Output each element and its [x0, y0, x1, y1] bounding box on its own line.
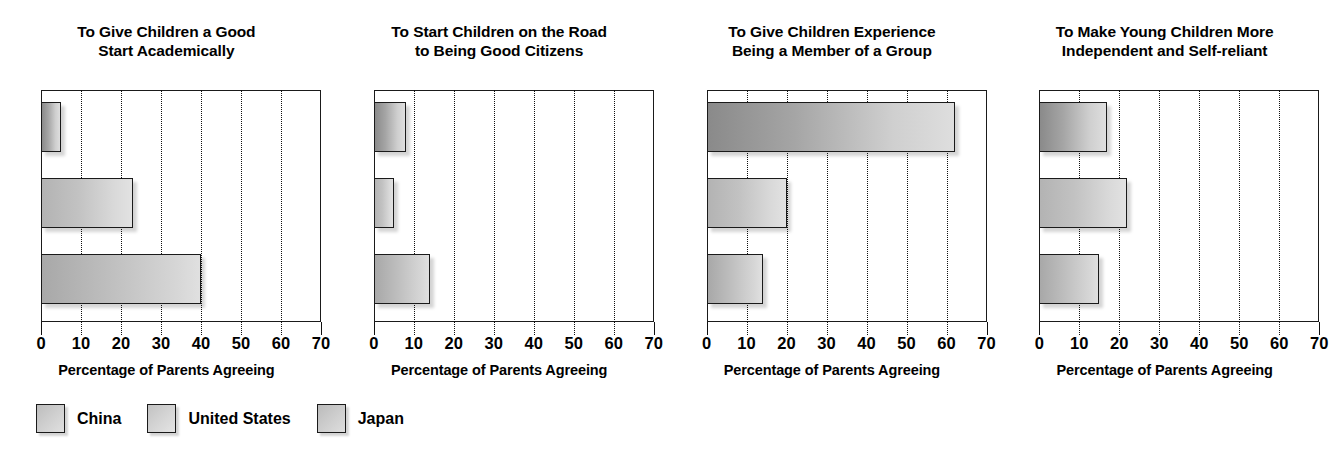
bar-japan — [707, 254, 763, 304]
tick-label-50: 50 — [232, 334, 250, 353]
bar-group — [707, 90, 987, 322]
tick-labels: 0 10 20 30 40 50 60 70 — [41, 334, 321, 356]
tick-label-40: 40 — [1190, 334, 1208, 353]
panel-title-line1: To Give Children a Good — [8, 22, 325, 41]
panel-title: To Start Children on the Road to Being G… — [341, 22, 658, 60]
legend-item-japan: Japan — [317, 404, 404, 433]
legend-label: United States — [188, 410, 290, 428]
legend-label: China — [77, 410, 121, 428]
chart-figure: To Give Children a Good Start Academical… — [0, 0, 1331, 462]
chart-legend: China United States Japan — [36, 404, 430, 433]
tick-label-0: 0 — [1035, 334, 1044, 353]
bar-japan — [41, 254, 201, 304]
tick-label-0: 0 — [702, 334, 711, 353]
tick-label-20: 20 — [1110, 334, 1128, 353]
tick-label-30: 30 — [817, 334, 835, 353]
chart-panel-good-citizens: To Start Children on the Road to Being G… — [333, 22, 666, 382]
legend-item-china: China — [36, 404, 121, 433]
tick-label-70: 70 — [1310, 334, 1328, 353]
tick-label-10: 10 — [737, 334, 755, 353]
bar-japan — [1039, 254, 1099, 304]
tick-labels: 0 10 20 30 40 50 60 70 — [707, 334, 987, 356]
tick-label-60: 60 — [937, 334, 955, 353]
tick-label-50: 50 — [897, 334, 915, 353]
bar-china — [707, 102, 955, 152]
x-axis-label: Percentage of Parents Agreeing — [998, 362, 1331, 378]
bar-china — [1039, 102, 1107, 152]
x-axis-label: Percentage of Parents Agreeing — [0, 362, 333, 378]
chart-panel-independent: To Make Young Children More Independent … — [998, 22, 1331, 382]
panel-title: To Make Young Children More Independent … — [1006, 22, 1323, 60]
tick-label-30: 30 — [152, 334, 170, 353]
legend-swatch-icon — [317, 404, 346, 433]
bar-group — [41, 90, 321, 322]
tick-labels: 0 10 20 30 40 50 60 70 — [374, 334, 654, 356]
bar-united-states — [1039, 178, 1127, 228]
bar-group — [1039, 90, 1319, 322]
bar-united-states — [707, 178, 787, 228]
legend-swatch-icon — [36, 404, 65, 433]
tick-label-10: 10 — [72, 334, 90, 353]
panel-row: To Give Children a Good Start Academical… — [0, 22, 1331, 382]
tick-label-10: 10 — [1070, 334, 1088, 353]
tick-label-50: 50 — [565, 334, 583, 353]
panel-title-line2: Start Academically — [8, 41, 325, 60]
panel-title-line2: Independent and Self-reliant — [1006, 41, 1323, 60]
panel-title-line2: to Being Good Citizens — [341, 41, 658, 60]
tick-label-20: 20 — [112, 334, 130, 353]
legend-label: Japan — [358, 410, 404, 428]
plot-area — [41, 90, 321, 322]
tick-label-20: 20 — [445, 334, 463, 353]
bar-japan — [374, 254, 430, 304]
bar-united-states — [41, 178, 133, 228]
bar-china — [374, 102, 406, 152]
legend-item-united-states: United States — [147, 404, 290, 433]
chart-panel-academic-start: To Give Children a Good Start Academical… — [0, 22, 333, 382]
chart-panel-group-member: To Give Children Experience Being a Memb… — [666, 22, 999, 382]
panel-title-line1: To Give Children Experience — [674, 22, 991, 41]
tick-label-30: 30 — [1150, 334, 1168, 353]
tick-label-50: 50 — [1230, 334, 1248, 353]
panel-title-line1: To Make Young Children More — [1006, 22, 1323, 41]
tick-label-60: 60 — [605, 334, 623, 353]
plot-area — [374, 90, 654, 322]
tick-label-70: 70 — [645, 334, 663, 353]
bar-china — [41, 102, 61, 152]
bar-group — [374, 90, 654, 322]
legend-swatch-icon — [147, 404, 176, 433]
tick-label-20: 20 — [777, 334, 795, 353]
tick-label-10: 10 — [405, 334, 423, 353]
panel-title-line2: Being a Member of a Group — [674, 41, 991, 60]
x-axis-label: Percentage of Parents Agreeing — [333, 362, 666, 378]
tick-label-0: 0 — [369, 334, 378, 353]
plot-area — [1039, 90, 1319, 322]
bar-united-states — [374, 178, 394, 228]
tick-label-70: 70 — [312, 334, 330, 353]
tick-label-40: 40 — [525, 334, 543, 353]
plot-area — [707, 90, 987, 322]
tick-label-0: 0 — [36, 334, 45, 353]
tick-label-40: 40 — [857, 334, 875, 353]
x-axis-label: Percentage of Parents Agreeing — [666, 362, 999, 378]
tick-label-60: 60 — [1270, 334, 1288, 353]
tick-label-40: 40 — [192, 334, 210, 353]
panel-title: To Give Children Experience Being a Memb… — [674, 22, 991, 60]
tick-labels: 0 10 20 30 40 50 60 70 — [1039, 334, 1319, 356]
panel-title: To Give Children a Good Start Academical… — [8, 22, 325, 60]
panel-title-line1: To Start Children on the Road — [341, 22, 658, 41]
tick-label-30: 30 — [485, 334, 503, 353]
tick-label-60: 60 — [272, 334, 290, 353]
tick-label-70: 70 — [977, 334, 995, 353]
